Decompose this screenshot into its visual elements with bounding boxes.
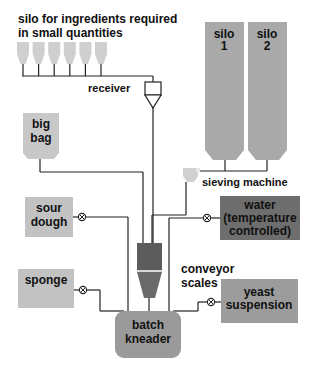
small-silo [79,42,91,64]
diagram-canvas: silo for ingredients required in small q… [0,0,315,375]
receiver-label: receiver [88,82,131,94]
conveyor-scales-label-1: conveyor [181,262,235,276]
conveyor-scales-label-2: scales [181,276,218,290]
water-valve-icon[interactable] [203,214,210,221]
small-silo [33,42,45,64]
sour-dough-label-1: sour [36,201,62,215]
sponge-valve-icon[interactable] [79,286,86,293]
silo-2-label-2: 2 [264,39,271,53]
sour-dough-valve-icon[interactable] [78,213,85,220]
silo-1-label-2: 1 [221,39,228,53]
sour-dough-label-2: dough [31,215,68,229]
sour-dough-tank: sour dough [25,197,73,237]
silo-1: silo 1 [205,22,244,160]
small-silos-group [17,42,107,76]
kneader-label-1: batch [132,318,164,332]
silo-2: silo 2 [248,22,287,160]
yeast-valve-icon[interactable] [207,298,214,305]
sieving-machine [183,168,200,182]
receiver [145,82,161,108]
small-silo [64,42,76,64]
receiver-body [145,82,161,95]
scale-hopper-top [137,243,162,270]
big-bag: big bag [23,113,59,159]
small-silo [48,42,60,64]
big-bag-label-2: bag [30,131,51,145]
yeast-suspension-tank: yeast suspension [221,279,298,323]
water-tank: water (temperature controlled) [220,196,300,240]
sieving-machine-label: sieving machine [202,176,288,188]
process-diagram: silo for ingredients required in small q… [0,0,315,375]
sponge-tank: sponge [18,269,74,308]
water-label-1: water [243,198,276,212]
yeast-label-2: suspension [226,298,293,312]
small-silo [95,42,107,64]
receiver-cone [145,95,161,108]
batch-kneader: batch kneader [115,311,181,358]
water-label-2: (temperature [223,211,297,225]
water-label-3: controlled) [229,224,291,238]
small-silos-label-2: in small quantities [18,26,123,40]
small-silos-label-1: silo for ingredients required [18,12,177,26]
sieving-machine-body [183,168,198,182]
scale-hopper-divider [137,270,162,272]
sieving-machine-inlet [196,168,200,172]
scale-hopper-cone [137,272,162,298]
scale-hopper [137,243,162,298]
big-bag-label-1: big [32,117,50,131]
small-silo [17,42,29,64]
kneader-label-2: kneader [125,332,171,346]
sponge-label: sponge [25,273,68,287]
yeast-label-1: yeast [244,285,275,299]
